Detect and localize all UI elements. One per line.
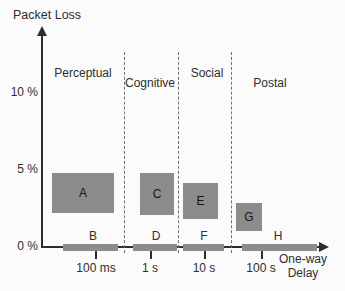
box-c-label: C [153, 187, 162, 201]
x-axis-arrow-icon [319, 242, 329, 252]
bar-f [183, 244, 224, 251]
bar-b [63, 244, 118, 251]
bar-h [242, 244, 317, 251]
x-axis-title-line1: One-way [273, 252, 333, 266]
bar-d [133, 244, 177, 251]
x-tick-label-100ms: 100 ms [66, 261, 126, 275]
y-tick-label-5pct: 5 % [0, 162, 38, 176]
bar-b-label: B [82, 229, 104, 243]
x-tick-10s [204, 251, 206, 259]
region-divider-3 [231, 52, 232, 253]
y-axis-line [41, 33, 43, 248]
bar-h-label: H [267, 229, 289, 243]
x-tick-label-1s: 1 s [120, 261, 180, 275]
region-label-postal: Postal [240, 76, 300, 90]
x-tick-1s [150, 251, 152, 259]
region-label-perceptual: Perceptual [47, 66, 119, 80]
box-g-label: G [244, 210, 253, 224]
box-c: C [140, 173, 174, 215]
x-tick-100ms [95, 251, 97, 259]
x-tick-100s [261, 251, 263, 259]
x-axis-title-line2: Delay [273, 266, 333, 280]
y-tick-label-0pct: 0 % [0, 239, 38, 253]
bar-d-label: D [145, 229, 167, 243]
box-g: G [236, 203, 262, 231]
y-axis-title: Packet Loss [13, 8, 81, 22]
box-e: E [183, 183, 218, 219]
y-axis-arrow-icon [37, 26, 47, 36]
y-tick-label-10pct: 10 % [0, 85, 38, 99]
packet-loss-delay-chart: Packet Loss 10 % 5 % 0 % Perceptual Cogn… [0, 0, 345, 291]
bar-f-label: F [193, 229, 215, 243]
x-tick-label-10s: 10 s [174, 261, 234, 275]
region-label-social: Social [177, 66, 237, 80]
box-a: A [52, 173, 114, 213]
box-a-label: A [79, 186, 87, 200]
region-label-cognitive: Cognitive [114, 76, 186, 90]
box-e-label: E [196, 194, 204, 208]
